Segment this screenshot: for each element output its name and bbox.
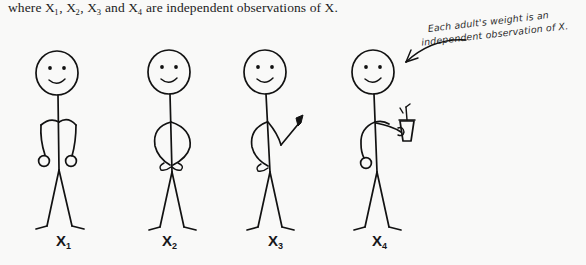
figure-1-left-leg — [47, 170, 59, 226]
caption-suffix: are independent observations of X. — [143, 0, 338, 15]
annotation-arrow-head-upper — [406, 58, 418, 62]
printed-caption: where X1, X2, X3 and X4 are independent … — [8, 0, 338, 16]
figure-3-left-eye-icon — [256, 65, 260, 69]
figure-3-drawing — [244, 50, 303, 230]
figure-2-left-arm-akimbo — [155, 122, 171, 165]
figure-4-drawing — [352, 50, 415, 230]
figure-1-right-eye-icon — [62, 66, 66, 70]
figure-1-drawing — [36, 51, 84, 229]
figure-4-torso — [374, 94, 377, 172]
figure-1-smile-icon — [49, 79, 65, 83]
figure-2-label: X2 — [162, 232, 177, 249]
figure-1-torso — [58, 95, 59, 170]
figure-1-right-hand-icon — [66, 156, 77, 167]
figure-2-drawing — [148, 50, 196, 230]
figure-3-left-hand-icon — [257, 164, 268, 171]
figure-2-right-leg — [172, 172, 184, 227]
figure-4-right-leg — [377, 172, 389, 227]
figure-3-label-sub: 3 — [278, 241, 283, 251]
figure-2-label-var: X — [162, 232, 172, 249]
figure-2-label-sub: 2 — [172, 241, 177, 251]
figure-4-right-arm-holding — [376, 123, 401, 132]
figure-3-pointing-hand-icon — [296, 115, 303, 126]
figure-1-left-hand-icon — [39, 156, 50, 167]
figure-2-left-leg — [160, 172, 172, 227]
figure-1-left-shoulder — [41, 120, 59, 125]
figure-4-left-eye-icon — [364, 65, 368, 69]
figure-3-right-foot — [282, 227, 294, 230]
figure-4-left-leg — [365, 172, 377, 227]
figure-3-label: X3 — [268, 232, 283, 249]
figure-1-label-var: X — [56, 232, 66, 249]
figure-4-label: X4 — [372, 232, 387, 249]
figure-1-label: X1 — [56, 232, 71, 249]
figure-4-straw-bend — [406, 104, 410, 107]
figure-3-right-leg — [270, 172, 282, 227]
figure-3-left-foot — [247, 227, 258, 230]
figure-1-left-eye-icon — [48, 66, 52, 70]
figure-4-left-foot — [354, 227, 365, 230]
figure-4-right-hand-icon — [398, 128, 404, 136]
figure-3-right-forearm-raised — [281, 122, 300, 145]
figure-4-right-shoulder — [375, 121, 389, 124]
figure-2-left-eye-icon — [160, 65, 164, 69]
figure-2-right-eye-icon — [174, 65, 178, 69]
figure-4-right-eye-icon — [378, 65, 382, 69]
figure-2-left-hand-icon — [160, 163, 171, 170]
figure-2-right-foot — [184, 227, 196, 230]
figure-1-right-foot — [72, 226, 84, 229]
figure-1-right-leg — [59, 170, 72, 226]
caption-sub-2: 2 — [76, 7, 80, 17]
caption-sub-1: 1 — [54, 7, 58, 17]
figure-4-left-arm — [361, 122, 375, 158]
figure-2-left-foot — [149, 227, 160, 230]
figure-2-smile-icon — [161, 78, 177, 82]
caption-sub-3: 3 — [97, 7, 101, 17]
figure-2-right-hand-icon — [172, 163, 182, 170]
figure-1-left-arm — [41, 125, 45, 155]
figure-4-right-foot — [389, 227, 401, 230]
figure-1-head-icon — [36, 51, 78, 95]
figure-2-torso — [170, 94, 172, 172]
handwritten-annotation: Each adult's weight is an independent ob… — [427, 6, 569, 48]
figure-3-right-upper-arm — [268, 122, 281, 145]
figure-1-right-arm — [72, 125, 76, 156]
figure-2-head-icon — [148, 50, 190, 94]
figure-3-head-icon — [244, 50, 286, 94]
figure-3-right-eye-icon — [270, 65, 274, 69]
figure-4-smile-icon — [365, 78, 381, 82]
figure-3-label-var: X — [268, 232, 278, 249]
figure-4-straw-second — [400, 108, 403, 113]
figure-2-right-arm-akimbo — [171, 122, 190, 165]
caption-var-4: X — [128, 0, 138, 15]
figure-1-left-foot — [36, 226, 47, 229]
caption-var-3: X — [87, 0, 97, 15]
illustration-page: where X1, X2, X3 and X4 are independent … — [0, 0, 586, 265]
figure-3-left-leg — [258, 172, 270, 227]
figure-4-head-icon — [352, 50, 394, 94]
figure-1-right-shoulder — [59, 120, 76, 125]
figure-3-left-arm-akimbo — [252, 122, 268, 166]
figure-3-smile-icon — [257, 78, 273, 82]
figure-1-label-sub: 1 — [66, 241, 71, 251]
figure-4-label-var: X — [372, 232, 382, 249]
caption-var-2: X — [66, 0, 76, 15]
figure-4-cup-icon — [400, 121, 414, 141]
caption-conjunction: and — [102, 0, 129, 15]
figure-3-torso — [266, 94, 270, 172]
annotation-arrow-head-lower — [406, 50, 411, 62]
caption-prefix: where — [8, 0, 45, 15]
figure-4-straw-icon — [406, 107, 407, 120]
figure-4-label-sub: 4 — [382, 241, 387, 251]
figure-4-left-hand-icon — [361, 158, 372, 169]
caption-sub-4: 4 — [138, 7, 142, 17]
